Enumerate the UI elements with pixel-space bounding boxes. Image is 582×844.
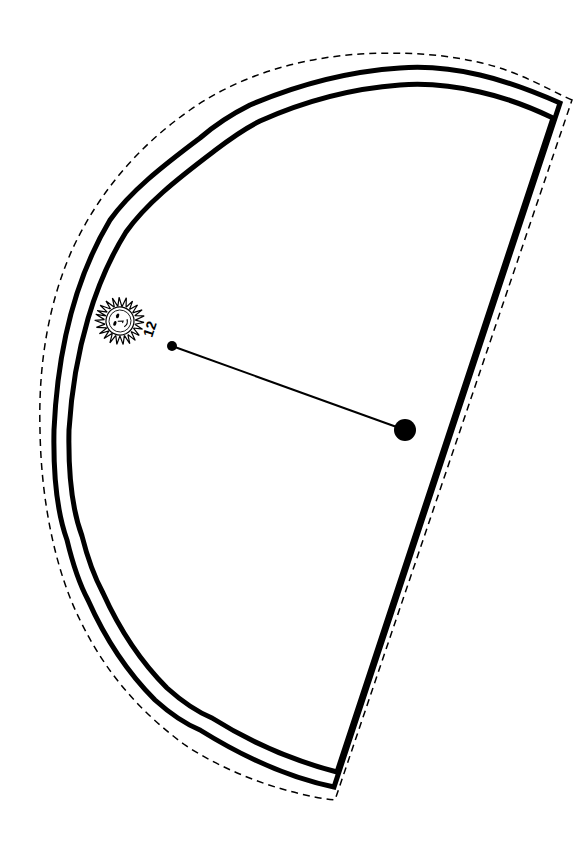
sun-face-icon bbox=[88, 290, 150, 352]
gnomon-line bbox=[172, 346, 405, 430]
gnomon-tip-dot bbox=[167, 341, 177, 351]
sundial-template: 12 bbox=[0, 0, 582, 844]
gnomon-pivot-dot[interactable] bbox=[394, 419, 416, 441]
outer-border bbox=[54, 67, 560, 787]
cut-line-dashed bbox=[40, 53, 572, 800]
